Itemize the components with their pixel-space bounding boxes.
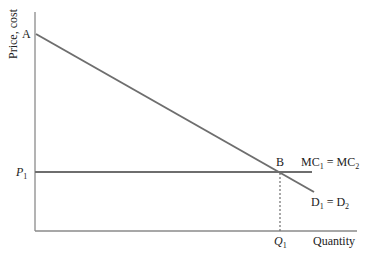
- p1-label: P1: [15, 165, 27, 181]
- price-quantity-diagram: Price, cost A P1 B MC1 = MC2 D1 = D2 Q1 …: [0, 0, 366, 260]
- point-b-label: B: [276, 155, 284, 169]
- q1-label: Q1: [274, 234, 287, 250]
- demand-curve: [36, 34, 314, 192]
- demand-curve-label: D1 = D2: [311, 195, 349, 211]
- y-axis-label: Price, cost: [6, 8, 20, 59]
- point-a-label: A: [22, 27, 31, 41]
- mc-curve-label: MC1 = MC2: [301, 155, 359, 171]
- x-axis-label: Quantity: [313, 234, 355, 248]
